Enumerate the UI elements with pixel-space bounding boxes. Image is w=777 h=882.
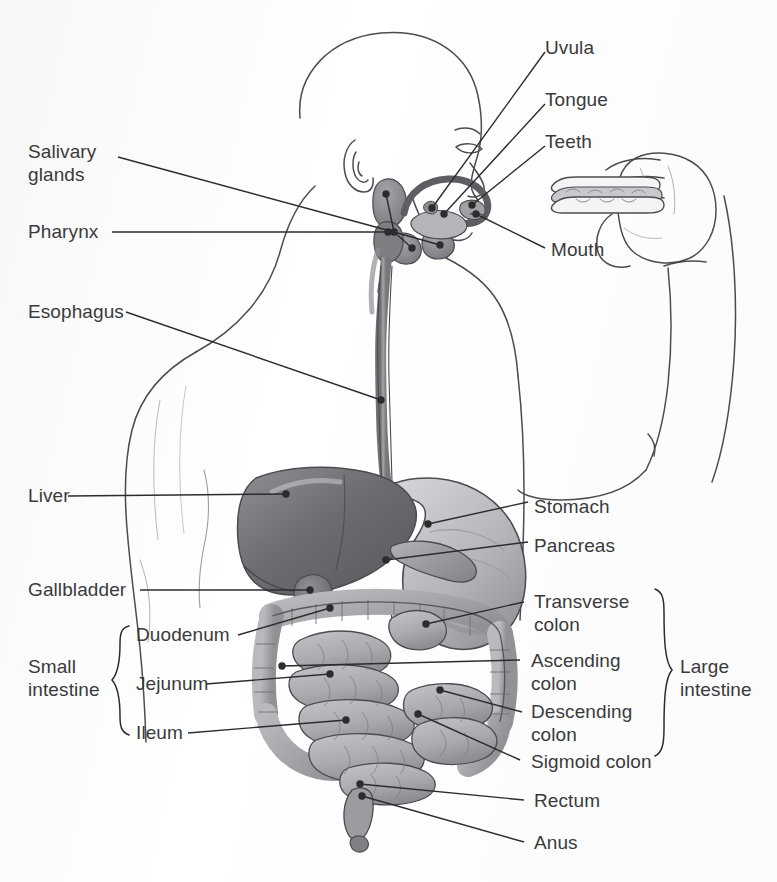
esophagus-outline-right	[389, 266, 392, 482]
leader-dot-salivary-2	[383, 191, 389, 197]
leader-dot-transverse-colon	[423, 621, 429, 627]
label-small-intestine-line2: intestine	[28, 678, 100, 701]
leader-dot-tongue	[441, 211, 447, 217]
upper-arm-inner	[646, 268, 671, 470]
label-transverse-colon-line2: colon	[534, 613, 580, 636]
leader-dot-ascending-colon	[279, 663, 285, 669]
leader-dot-rectum	[357, 781, 363, 787]
leader-dot-teeth	[469, 202, 475, 208]
descending-colon	[264, 616, 272, 714]
anatomy-illustration	[0, 0, 777, 882]
sandwich	[551, 177, 664, 213]
back-shading-1	[154, 400, 160, 540]
digestive-system-figure: Uvula Tongue Teeth Mouth Salivary glands…	[0, 0, 777, 882]
label-liver: Liver	[28, 484, 70, 507]
label-large-intestine-line2: intestine	[680, 678, 752, 701]
leader-dot-uvula	[429, 205, 435, 211]
tongue	[411, 211, 467, 239]
leader-dot-mouth	[473, 211, 479, 217]
label-ascending-colon-line2: colon	[531, 672, 577, 695]
leader-anus	[362, 796, 524, 842]
label-transverse-colon-line1: Transverse	[534, 590, 629, 613]
label-esophagus: Esophagus	[28, 300, 124, 323]
leader-dot-stomach	[425, 521, 431, 527]
large-intestine-brace	[655, 589, 672, 756]
wrist	[664, 261, 706, 266]
esophagus	[381, 262, 386, 482]
leader-dot-salivary-4	[437, 242, 443, 248]
anus	[350, 836, 368, 852]
small-intestine-brace	[112, 626, 129, 735]
back-shading-2	[180, 386, 186, 534]
salivary-gland-parotid	[373, 179, 407, 228]
label-rectum: Rectum	[534, 789, 600, 812]
leader-dot-sigmoid-colon	[415, 711, 421, 717]
scapula-crease	[199, 470, 208, 608]
label-tongue: Tongue	[545, 88, 608, 111]
leader-dot-liver	[283, 491, 289, 497]
label-ascending-colon-line1: Ascending	[531, 649, 621, 672]
arm-and-hand	[518, 153, 736, 500]
leader-dot-salivary-3	[409, 245, 415, 251]
knuckle-shade-2	[668, 166, 675, 214]
ear-inner2	[358, 162, 362, 176]
upper-arm-outer	[712, 196, 736, 482]
leader-dot-gallbladder	[307, 587, 313, 593]
leader-dot-pharynx	[385, 229, 391, 235]
label-teeth: Teeth	[545, 130, 592, 153]
leader-dot-ileum	[343, 717, 349, 723]
leader-dot-jejunum	[327, 671, 333, 677]
label-pancreas: Pancreas	[534, 534, 615, 557]
label-gallbladder: Gallbladder	[28, 578, 126, 601]
label-descending-colon-line1: Descending	[531, 700, 632, 723]
label-salivary-glands-line2: glands	[28, 163, 85, 186]
leader-dot-esophagus	[378, 397, 384, 403]
leader-teeth	[472, 146, 545, 205]
label-descending-colon-line2: colon	[531, 723, 577, 746]
leader-dot-descending-colon	[437, 687, 443, 693]
label-uvula: Uvula	[545, 36, 594, 59]
leader-dot-duodenum	[327, 605, 333, 611]
label-pharynx: Pharynx	[28, 220, 98, 243]
ear-inner	[353, 152, 368, 182]
facial-features	[455, 128, 480, 134]
label-mouth: Mouth	[551, 238, 604, 261]
leader-esophagus	[126, 312, 381, 400]
label-duodenum: Duodenum	[136, 623, 230, 646]
label-salivary-glands-line1: Salivary	[28, 140, 96, 163]
label-large-intestine-line1: Large	[680, 655, 729, 678]
label-ileum: Ileum	[136, 721, 183, 744]
label-small-intestine-line1: Small	[28, 655, 76, 678]
neck-back	[196, 186, 315, 352]
leader-dot-anus	[359, 793, 365, 799]
leader-mouth	[476, 214, 545, 248]
label-anus: Anus	[534, 831, 578, 854]
leader-dot-pancreas	[383, 557, 389, 563]
duodenum	[389, 611, 447, 650]
esophagus-upper-shade	[371, 250, 378, 312]
palm-shade	[624, 228, 662, 239]
label-jejunum: Jejunum	[136, 672, 209, 695]
liver	[238, 467, 417, 595]
digestive-tract	[238, 179, 526, 852]
leader-uvula	[432, 52, 545, 208]
label-stomach: Stomach	[534, 495, 610, 518]
label-sigmoid-colon: Sigmoid colon	[531, 750, 652, 773]
shoulder-front	[446, 258, 518, 376]
